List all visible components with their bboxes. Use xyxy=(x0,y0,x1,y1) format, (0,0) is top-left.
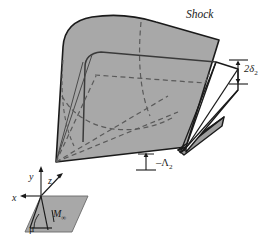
sweep-angle-label-sub: 2 xyxy=(169,163,173,171)
mach-number-label-sub: ∞ xyxy=(61,214,66,221)
sweep-angle-dimension xyxy=(136,153,156,171)
thickness-arrowhead-up xyxy=(236,61,241,66)
z-axis-arrowhead xyxy=(57,173,64,178)
x-axis-arrowhead xyxy=(20,194,26,199)
sweep-arrowhead xyxy=(144,153,149,158)
thickness-label-text: 2δ xyxy=(244,63,254,74)
mach-number-label: M∞ xyxy=(53,209,66,222)
sweep-angle-label-text: –Λ xyxy=(156,157,169,168)
figure-canvas: Shock 2δ2 –Λ2 y z x M∞ μ xyxy=(0,0,272,240)
diagram-svg xyxy=(0,0,272,240)
shock-label: Shock xyxy=(186,9,213,21)
thickness-label: 2δ2 xyxy=(244,64,258,77)
x-axis-label: x xyxy=(12,193,16,203)
y-axis-arrowhead xyxy=(39,166,44,172)
mach-angle-label: μ xyxy=(29,224,34,234)
z-axis-label: z xyxy=(48,176,52,186)
coordinate-axes xyxy=(20,166,63,198)
sweep-angle-label: –Λ2 xyxy=(156,158,172,171)
y-axis-label: y xyxy=(29,172,33,182)
thickness-label-sub: 2 xyxy=(254,69,258,77)
